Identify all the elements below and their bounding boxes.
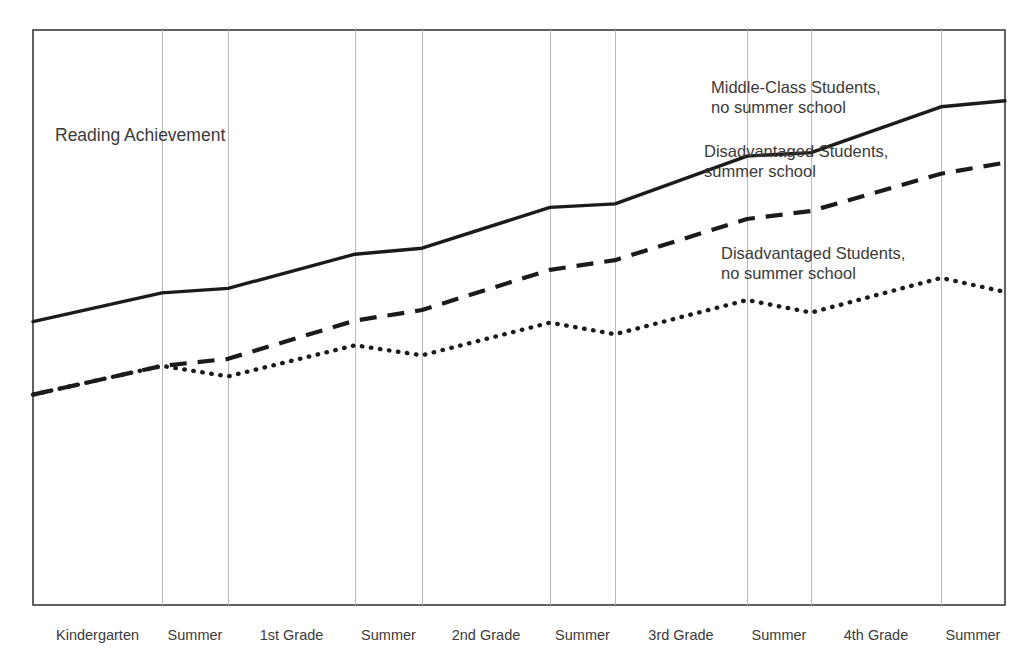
x-axis-tick-labels: KindergartenSummer1st GradeSummer2nd Gra…: [56, 627, 1001, 643]
reading-achievement-chart: Reading Achievement Middle-Class Student…: [0, 0, 1031, 670]
x-axis-tick-label: Summer: [752, 627, 807, 643]
annotation-middle-class-line2: no summer school: [711, 98, 846, 116]
x-axis-tick-label: Summer: [361, 627, 416, 643]
x-axis-tick-label: Summer: [946, 627, 1001, 643]
chart-canvas: Reading Achievement Middle-Class Student…: [0, 0, 1031, 670]
x-axis-tick-label: 3rd Grade: [648, 627, 713, 643]
x-axis-tick-label: 2nd Grade: [452, 627, 521, 643]
plot-area-frame: [33, 30, 1005, 605]
x-axis-tick-label: Summer: [168, 627, 223, 643]
x-axis-tick-label: Kindergarten: [56, 627, 139, 643]
x-axis-tick-label: 1st Grade: [260, 627, 324, 643]
plot-title: Reading Achievement: [55, 125, 225, 145]
annotation-disadvantaged-no-summer-school-line2: no summer school: [721, 264, 856, 282]
annotation-disadvantaged-summer-school-line1: Disadvantaged Students,: [704, 142, 888, 160]
annotation-middle-class-line1: Middle-Class Students,: [711, 78, 881, 96]
x-axis-tick-label: Summer: [555, 627, 610, 643]
annotation-disadvantaged-no-summer-school-line1: Disadvantaged Students,: [721, 244, 905, 262]
annotation-disadvantaged-summer-school-line2: summer school: [704, 162, 816, 180]
x-axis-tick-label: 4th Grade: [844, 627, 909, 643]
